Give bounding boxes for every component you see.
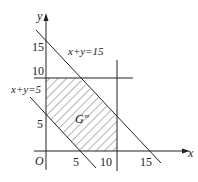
x-tick-15: 15 — [140, 155, 152, 169]
y-tick-5: 5 — [37, 117, 43, 131]
origin-label: O — [35, 154, 44, 168]
y-axis-label: y — [36, 9, 43, 23]
y-axis-arrow-icon — [44, 13, 49, 21]
region-label: G″ — [75, 112, 90, 126]
x-axis-label: x — [187, 146, 194, 160]
line-label-x-plus-y-5: x+y=5 — [10, 83, 42, 95]
diagram-canvas: y x O 15 10 5 5 10 15 x+y=15 x+y=5 G″ — [0, 0, 198, 182]
y-tick-10: 10 — [32, 64, 44, 78]
line-label-x-plus-y-15: x+y=15 — [67, 45, 104, 57]
x-tick-10: 10 — [100, 155, 112, 169]
x-tick-5: 5 — [73, 155, 79, 169]
y-tick-15: 15 — [32, 40, 44, 54]
